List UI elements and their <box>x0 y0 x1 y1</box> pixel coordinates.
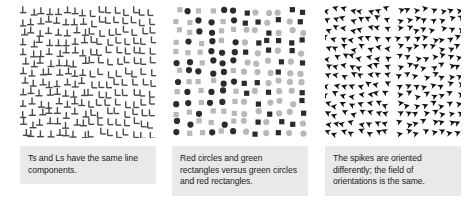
spikes-canvas <box>325 6 461 138</box>
caption-box-spikes: The spikes are oriented differently; the… <box>325 146 461 196</box>
panel-circles-and-rectangles: Red circles and green rectangles versus … <box>160 0 312 207</box>
caption-box-circles-and-rectangles: Red circles and green rectangles versus … <box>172 146 308 196</box>
stimulus-circles-and-rectangles <box>172 6 308 138</box>
circles-and-rectangles-canvas <box>172 6 308 138</box>
caption-box-ts-and-ls: Ts and Ls have the same line components. <box>20 146 156 184</box>
ts-and-ls-canvas <box>20 6 156 138</box>
stimulus-ts-and-ls <box>20 6 156 138</box>
panel-ts-and-ls: Ts and Ls have the same line components. <box>8 0 160 207</box>
panel-spikes: The spikes are oriented differently; the… <box>313 0 465 207</box>
texture-segregation-figure: Ts and Ls have the same line components.… <box>0 0 474 207</box>
caption-text-spikes: The spikes are oriented differently; the… <box>333 153 453 188</box>
caption-text-ts-and-ls: Ts and Ls have the same line components. <box>28 153 148 176</box>
stimulus-spikes <box>325 6 461 138</box>
caption-text-circles-and-rectangles: Red circles and green rectangles versus … <box>180 153 300 188</box>
